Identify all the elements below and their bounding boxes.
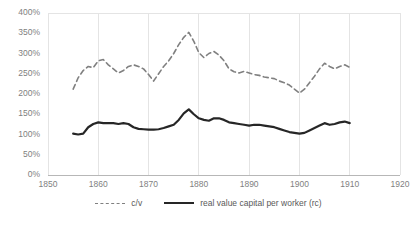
- x-tick-label: 1920: [380, 179, 417, 189]
- legend-label-cv: c/v: [131, 198, 142, 208]
- legend-swatch-dashed-icon: [95, 203, 125, 204]
- x-tick-label: 1890: [229, 179, 269, 189]
- chart-plot-area: [0, 0, 417, 226]
- legend-item-cv[interactable]: c/v: [95, 198, 142, 208]
- x-tick-label: 1850: [28, 179, 68, 189]
- y-tick-label: 0%: [6, 169, 40, 179]
- chart-container: 400%350%300%250%200%150%100%50%0% 185018…: [0, 0, 417, 226]
- series-line: [73, 109, 350, 134]
- x-tick-label: 1880: [179, 179, 219, 189]
- y-tick-label: 200%: [6, 88, 40, 98]
- data-series-layer: [73, 32, 350, 134]
- legend-item-rc[interactable]: real value capital per worker (rc): [164, 198, 321, 208]
- chart-legend: c/v real value capital per worker (rc): [0, 198, 417, 208]
- x-tick-label: 1910: [330, 179, 370, 189]
- y-tick-label: 250%: [6, 68, 40, 78]
- legend-swatch-solid-icon: [164, 202, 194, 204]
- y-tick-label: 100%: [6, 129, 40, 139]
- y-tick-label: 50%: [6, 149, 40, 159]
- x-tick-label: 1900: [279, 179, 319, 189]
- series-line: [73, 32, 350, 93]
- y-tick-label: 400%: [6, 7, 40, 17]
- x-tick-label: 1860: [78, 179, 118, 189]
- x-tick-label: 1870: [129, 179, 169, 189]
- gridlines: [48, 13, 400, 175]
- y-tick-label: 350%: [6, 27, 40, 37]
- legend-label-rc: real value capital per worker (rc): [200, 198, 321, 208]
- y-tick-label: 300%: [6, 48, 40, 58]
- y-tick-label: 150%: [6, 108, 40, 118]
